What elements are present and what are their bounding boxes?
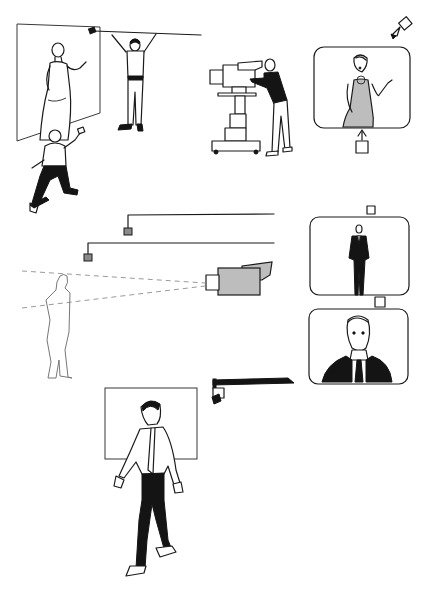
camera-marker	[356, 130, 368, 153]
camera-operator-scene	[210, 59, 292, 156]
boom-operator	[112, 34, 156, 131]
boom-pole	[94, 31, 201, 35]
sightline-upper	[22, 271, 205, 283]
presenter-on-screen	[343, 55, 392, 127]
ceiling-light-lower	[84, 243, 274, 261]
kneeling-technician	[30, 127, 85, 213]
ceiling-light-upper	[124, 214, 274, 235]
monitor-indicator-upper	[367, 206, 375, 214]
monitor-indicator-lower	[375, 297, 385, 307]
walking-man	[114, 401, 183, 576]
figure-outline	[46, 275, 72, 379]
studio-camera	[206, 262, 272, 295]
shot-framing-scene	[22, 197, 409, 384]
spotlight-icon	[391, 17, 412, 39]
pedestal-camera	[210, 61, 262, 154]
monitor-presenter-scene	[314, 17, 412, 153]
studio-set	[17, 24, 201, 213]
walking-man-scene	[105, 378, 294, 576]
tv-studio-illustration	[0, 0, 428, 594]
female-presenter	[40, 43, 86, 140]
man-long-shot	[349, 225, 369, 295]
ceiling-camera-mount	[212, 378, 294, 404]
man-close-up	[322, 316, 392, 382]
boom-microphone	[88, 27, 95, 34]
